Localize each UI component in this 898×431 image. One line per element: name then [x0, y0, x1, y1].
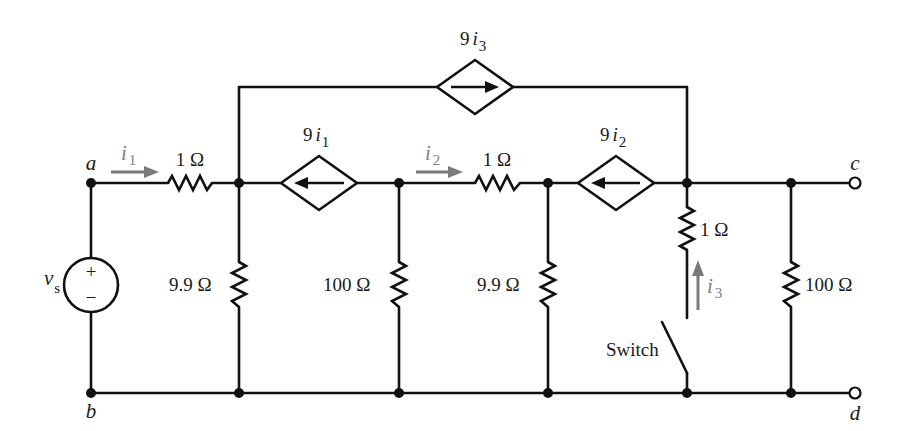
voltage-source: + −: [64, 258, 118, 312]
node-d-label: d: [850, 401, 861, 425]
dependent-source-right: [578, 156, 654, 210]
dependent-source-top: [437, 60, 513, 114]
switch-blade: [662, 322, 687, 373]
node-c-label: c: [850, 151, 860, 175]
node-dot: [394, 388, 404, 398]
terminal-c: [850, 178, 861, 189]
dep-source-9i2-label: 9i2: [600, 124, 626, 150]
resistor-shunt-9.9-left: [232, 262, 246, 307]
resistor-shunt-100-middle: [392, 262, 406, 307]
resistor-switch-branch-label: 1 Ω: [700, 219, 728, 240]
node-dot: [234, 178, 244, 188]
arrowhead-right-icon: [448, 166, 463, 178]
wires: [91, 87, 849, 393]
node-a-dot: [86, 178, 96, 188]
circuit-diagram: + −: [0, 0, 898, 431]
node-dot: [543, 178, 553, 188]
terminal-d: [850, 388, 861, 399]
node-dot: [682, 388, 692, 398]
current-i1-label: i1: [121, 141, 136, 168]
node-b-dot: [86, 388, 96, 398]
node-b-label: b: [86, 399, 97, 423]
node-dot: [234, 388, 244, 398]
resistor-r2: [475, 176, 520, 190]
arrowhead-up-icon: [692, 260, 704, 276]
node-dot: [786, 388, 796, 398]
node-dot: [543, 388, 553, 398]
resistor-r1: [168, 176, 212, 190]
resistor-shunt-100-middle-label: 100 Ω: [323, 274, 370, 295]
dep-source-9i1-label: 9i1: [303, 124, 329, 150]
resistor-load-100-label: 100 Ω: [805, 274, 852, 295]
source-plus: +: [86, 261, 97, 282]
dep-source-9i3-label: 9i3: [460, 28, 486, 54]
node-dot: [786, 178, 796, 188]
switch-label: Switch: [606, 339, 659, 360]
current-i3-label: i3: [707, 274, 722, 301]
dependent-source-left: [281, 156, 357, 210]
switch: [662, 322, 687, 373]
node-a-label: a: [86, 151, 97, 175]
resistor-shunt-9.9-right-label: 9.9 Ω: [477, 274, 520, 295]
node-dot: [682, 178, 692, 188]
resistor-load-100: [784, 262, 798, 307]
resistor-r2-label: 1 Ω: [483, 149, 511, 170]
source-minus: −: [86, 287, 97, 308]
source-label: vs: [44, 266, 60, 296]
current-i2-label: i2: [425, 141, 440, 168]
resistor-shunt-9.9-left-label: 9.9 Ω: [169, 274, 212, 295]
node-dot: [394, 178, 404, 188]
resistor-shunt-9.9-right: [541, 262, 555, 307]
resistor-switch-branch: [680, 207, 694, 250]
arrowhead-right-icon: [144, 166, 159, 178]
resistor-r1-label: 1 Ω: [176, 149, 204, 170]
